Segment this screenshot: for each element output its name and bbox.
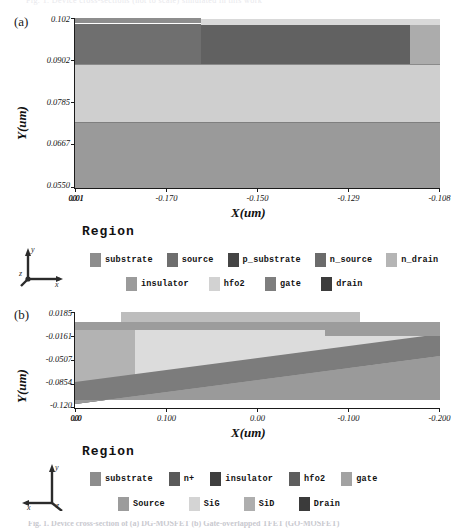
- legend-swatch-gate: [341, 472, 352, 486]
- panel-a-y-axis-title: Y(um): [14, 106, 30, 140]
- panel-a-axis-triad: y x z: [18, 243, 64, 287]
- legend-item[interactable]: Drain: [299, 497, 341, 511]
- legend-label: insulator: [225, 474, 273, 484]
- panel-b-xtick-2: 0.00: [235, 413, 280, 423]
- panel-a-ytick-0: 0.102: [30, 14, 70, 24]
- panel-a-region-top-sliver: [75, 18, 201, 23]
- panel-a-ytick-3: 0.0667: [30, 138, 70, 148]
- panel-a-xtickmark: [166, 189, 167, 192]
- legend-item[interactable]: hfo2: [209, 277, 245, 291]
- legend-label: gate: [280, 279, 301, 289]
- panel-a-ytick-1: 0.0902: [30, 55, 70, 65]
- legend-item[interactable]: n+: [169, 472, 195, 486]
- legend-item[interactable]: gate: [265, 277, 301, 291]
- legend-item[interactable]: substrate: [90, 472, 153, 486]
- panel-a-region-n-source-block: [75, 24, 201, 65]
- panel-a-xtickmark: [348, 189, 349, 192]
- legend-swatch-drain: [299, 497, 310, 511]
- panel-b-region-gate-top-cap-2: [121, 312, 360, 322]
- legend-item[interactable]: SiD: [244, 497, 275, 511]
- panel-a-ytickmark: [71, 18, 74, 19]
- panel-b-xtickmark: [257, 409, 258, 412]
- panel-a-xtick-1: -0.170: [144, 193, 189, 203]
- legend-label: hfo2: [224, 279, 245, 289]
- legend-swatch-substrate: [90, 253, 101, 267]
- panel-b-ytick-0: 0.0185: [28, 308, 72, 318]
- figure-page: Fig. 1. Device cross-sections (not to sc…: [0, 0, 456, 530]
- panel-a-region-boundary-line-2: [75, 122, 440, 123]
- legend-label: source: [182, 255, 214, 265]
- panel-a-ytick-4: 0.0550: [30, 180, 70, 190]
- panel-a-ytick-2: 0.0785: [30, 97, 70, 107]
- panel-a: (a) Y(um) 0.102 0.0902 0.0785 0.0667 0.0…: [0, 0, 456, 230]
- panel-b-xtickmark: [439, 409, 440, 412]
- legend-item[interactable]: source: [167, 253, 214, 267]
- legend-swatch-substrate: [90, 472, 101, 486]
- legend-item[interactable]: n_source: [315, 253, 372, 267]
- panel-b-x-axis-title: X(um): [231, 425, 266, 441]
- panel-b-xtickmark: [348, 409, 349, 412]
- panel-b-xtickmark: [166, 409, 167, 412]
- legend-swatch-hfo2: [289, 472, 300, 486]
- panel-b-ytickmark: [71, 312, 74, 313]
- legend-label: p_substrate: [243, 255, 301, 265]
- legend-item[interactable]: drain: [321, 277, 363, 291]
- panel-a-ytickmark: [71, 144, 74, 145]
- legend-item[interactable]: substrate: [90, 253, 153, 267]
- legend-item[interactable]: Source: [118, 497, 165, 511]
- panel-a-legend-title: Region: [82, 224, 135, 239]
- legend-swatch-gate: [265, 277, 276, 291]
- legend-swatch-insulator: [210, 472, 221, 486]
- panel-a-region-boundary-line: [75, 64, 440, 65]
- panel-a-ytickmark: [71, 187, 74, 188]
- legend-label: n+: [184, 474, 195, 484]
- bottom-caption-strip: Fig. 1. Device cross-section of (a) DG-M…: [0, 521, 456, 530]
- legend-label: substrate: [105, 474, 153, 484]
- legend-item[interactable]: insulator: [210, 472, 273, 486]
- panel-b-region-upper-bar-2: [75, 322, 325, 330]
- svg-text:y: y: [30, 245, 35, 254]
- legend-swatch-p-substrate: [228, 253, 239, 267]
- panel-a-xtickmark: [257, 189, 258, 192]
- panel-b-ytickmark: [71, 407, 74, 408]
- legend-item[interactable]: SiG: [189, 497, 220, 511]
- panel-a-ytickmark: [71, 60, 74, 61]
- panel-b-xtick-4: -0.200: [417, 413, 456, 423]
- svg-text:x: x: [54, 280, 59, 287]
- panel-a-region-p-substrate-core: [201, 24, 410, 65]
- panel-b-letter: (b): [14, 307, 29, 323]
- panel-a-xtickmark: [75, 189, 76, 192]
- legend-label: SiG: [204, 499, 220, 509]
- panel-a-letter: (a): [14, 14, 28, 30]
- legend-item[interactable]: n_drain: [386, 253, 438, 267]
- panel-b-xtick-3: -0.100: [326, 413, 371, 423]
- legend-label: hfo2: [304, 474, 325, 484]
- panel-b-legend-row-2: Source SiG SiD Drain: [118, 497, 340, 511]
- panel-a-region-substrate-layer: [75, 123, 440, 188]
- svg-text:y: y: [54, 463, 59, 472]
- legend-swatch-drain: [321, 277, 332, 291]
- legend-swatch-sid: [244, 497, 255, 511]
- panel-a-plot-area: [75, 18, 440, 188]
- legend-label: n_source: [330, 255, 372, 265]
- legend-label: n_drain: [401, 255, 438, 265]
- panel-b-cross-section: [75, 312, 440, 408]
- panel-a-xtick-0: 0.00 1: [53, 193, 98, 203]
- panel-b-ytickmark: [71, 360, 74, 361]
- legend-swatch-hfo2: [209, 277, 220, 291]
- legend-item[interactable]: insulator: [126, 277, 189, 291]
- legend-label: Drain: [314, 499, 341, 509]
- legend-item[interactable]: p_substrate: [228, 253, 301, 267]
- legend-label: Source: [133, 499, 165, 509]
- legend-label: SiD: [259, 499, 275, 509]
- legend-item[interactable]: hfo2: [289, 472, 325, 486]
- panel-a-xtick-3: -0.129: [326, 193, 371, 203]
- panel-b-ytick-1: -0.0161: [28, 331, 72, 341]
- panel-b-region-gate-step: [360, 322, 395, 330]
- legend-item[interactable]: gate: [341, 472, 377, 486]
- panel-a-ytickmark: [71, 102, 74, 103]
- panel-b-xtickmark: [75, 409, 76, 412]
- legend-swatch-source: [118, 497, 129, 511]
- panel-b-legend-row-1: substrate n+ insulator hfo2 gate: [90, 472, 377, 486]
- legend-label: drain: [336, 279, 363, 289]
